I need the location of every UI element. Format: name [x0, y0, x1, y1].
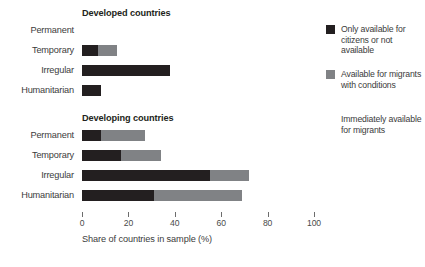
panel-title-developed: Developed countries	[82, 8, 170, 18]
bar-track	[82, 25, 314, 36]
x-tick-label: 80	[253, 218, 283, 228]
x-axis: 020406080100 Share of countries in sampl…	[0, 212, 425, 252]
bar-track	[82, 45, 314, 56]
x-tick-label: 40	[160, 218, 190, 228]
legend-swatch-gray	[326, 70, 335, 79]
bar-segment-dark	[82, 45, 98, 56]
x-tick-mark	[82, 212, 83, 217]
x-tick-mark	[314, 212, 315, 217]
bar-segment-dark	[82, 170, 210, 181]
x-tick-label: 0	[67, 218, 97, 228]
x-tick-mark	[175, 212, 176, 217]
bar-segment-gray	[210, 170, 249, 181]
category-label-permanent: Permanent	[0, 24, 74, 37]
bar-segment-dark	[82, 190, 154, 201]
category-label-irregular: Irregular	[0, 169, 74, 182]
bar-row: Humanitarian	[0, 84, 330, 97]
bar-segment-gray	[154, 190, 242, 201]
bar-track	[82, 130, 314, 141]
bar-row: Humanitarian	[0, 189, 330, 202]
bar-segment-gray	[121, 150, 160, 161]
bar-row: Temporary	[0, 149, 330, 162]
legend-swatch-dark	[326, 25, 335, 34]
category-label-temporary: Temporary	[0, 149, 74, 162]
legend-label: Immediately available for migrants	[341, 114, 425, 135]
bar-track	[82, 65, 314, 76]
bar-segment-gray	[101, 130, 145, 141]
bar-row: Irregular	[0, 64, 330, 77]
bar-track	[82, 170, 314, 181]
legend-swatch-light	[326, 115, 335, 124]
bar-track	[82, 190, 314, 201]
bar-track	[82, 150, 314, 161]
x-tick-mark	[268, 212, 269, 217]
bar-row: Permanent	[0, 129, 330, 142]
bar-segment-dark	[82, 130, 101, 141]
chart-container: Developed countries Permanent Temporary …	[0, 0, 425, 267]
category-label-irregular: Irregular	[0, 64, 74, 77]
legend-label: Available for migrants with conditions	[341, 69, 425, 90]
x-tick-mark	[128, 212, 129, 217]
x-axis-title: Share of countries in sample (%)	[82, 234, 212, 244]
x-tick-label: 20	[113, 218, 143, 228]
category-label-temporary: Temporary	[0, 44, 74, 57]
bar-track	[82, 85, 314, 96]
panel-title-developing: Developing countries	[82, 113, 173, 123]
x-tick-mark	[221, 212, 222, 217]
bar-row: Temporary	[0, 44, 330, 57]
bar-row: Permanent	[0, 24, 330, 37]
bar-segment-dark	[82, 150, 121, 161]
category-label-humanitarian: Humanitarian	[0, 84, 74, 97]
legend-label: Only available for citizens or not avail…	[341, 24, 425, 56]
bar-segment-gray	[98, 45, 117, 56]
bar-row: Irregular	[0, 169, 330, 182]
x-tick-label: 100	[299, 218, 329, 228]
x-tick-label: 60	[206, 218, 236, 228]
category-label-humanitarian: Humanitarian	[0, 189, 74, 202]
bar-segment-dark	[82, 65, 170, 76]
bar-segment-dark	[82, 85, 101, 96]
category-label-permanent: Permanent	[0, 129, 74, 142]
